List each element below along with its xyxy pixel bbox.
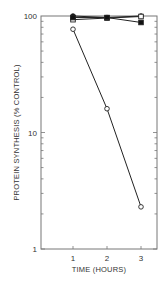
data-point-circle <box>105 106 110 111</box>
data-point-square <box>105 15 110 20</box>
data-point-square <box>71 15 76 20</box>
x-tick-label: 1 <box>71 254 76 263</box>
y-axis-label: PROTEIN SYNTHESIS (% CONTROL) <box>12 64 21 201</box>
x-axis-label: TIME (HOURS) <box>72 265 127 274</box>
series-line <box>73 29 141 207</box>
y-tick-label: 10 <box>28 129 37 138</box>
data-point-square <box>139 14 144 19</box>
y-tick-label: 100 <box>24 12 38 21</box>
y-tick-label: 1 <box>33 245 38 254</box>
chart: 110100123TIME (HOURS)PROTEIN SYNTHESIS (… <box>0 0 168 283</box>
plot-frame <box>41 16 157 249</box>
x-tick-label: 3 <box>139 254 144 263</box>
data-point-square <box>139 20 144 25</box>
data-point-circle <box>71 27 76 32</box>
x-tick-label: 2 <box>105 254 110 263</box>
data-point-circle <box>139 205 144 210</box>
